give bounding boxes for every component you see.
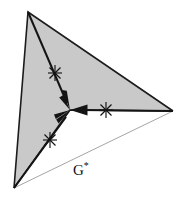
figure-container: G* [0,0,182,202]
star-marker-upper [48,65,62,81]
shaded-region-fill [14,12,173,188]
star-marker-right [99,102,113,118]
g-star-label-superscript: * [84,160,89,171]
star-marker-lower [43,132,57,148]
geometric-diagram [0,0,182,202]
g-star-label: G* [73,161,89,178]
g-star-label-base: G [73,162,84,178]
flow-arrow-from-right [80,110,173,111]
